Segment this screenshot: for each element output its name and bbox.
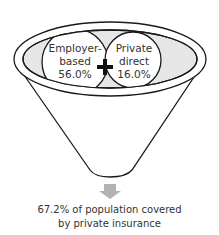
- private-insurance-funnel-diagram: Employer- based 56.0% Private direct 16.…: [0, 0, 219, 235]
- down-arrow-icon: [99, 184, 121, 199]
- funnel-graphic: [0, 0, 219, 235]
- result-caption: 67.2% of population covered by private i…: [0, 203, 219, 231]
- private-direct-value: 16.0%: [108, 68, 160, 81]
- employer-based-label: Employer- based 56.0%: [44, 42, 106, 81]
- employer-based-value: 56.0%: [44, 68, 106, 81]
- private-direct-label: Private direct 16.0%: [108, 42, 160, 81]
